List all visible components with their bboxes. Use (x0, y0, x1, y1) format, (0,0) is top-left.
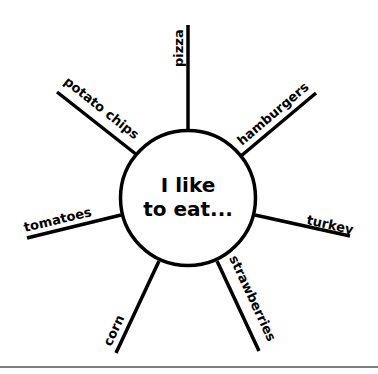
spoke-label-potato-chips: potato chips (61, 74, 142, 143)
spoke-label-hamburgers: hamburgers (234, 79, 311, 148)
spoke-label-corn: corn (100, 313, 127, 349)
spoke-label-turkey: turkey (305, 212, 355, 237)
diagram-canvas: I like to eat... pizza hamburgers turkey… (0, 0, 378, 374)
center-text-line2: to eat... (143, 197, 233, 221)
spoke-label-pizza: pizza (171, 29, 186, 67)
spoke-line-corn (116, 261, 159, 353)
web-diagram: I like to eat... pizza hamburgers turkey… (0, 0, 378, 374)
center-text-line1: I like (161, 173, 215, 197)
